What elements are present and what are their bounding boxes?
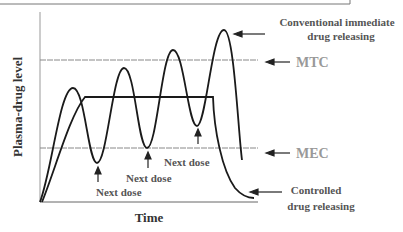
drug-release-diagram: Plasma-drug level Time Next dose Next do… <box>0 0 403 232</box>
next-dose-label-1: Next dose <box>96 186 142 198</box>
arrow-up-icon <box>95 167 101 174</box>
y-axis-label: Plasma-drug level <box>10 57 25 157</box>
x-axis-label: Time <box>135 210 164 225</box>
conventional-label-line1: Conventional immediate <box>279 16 394 28</box>
conventional-label-line2: drug releasing <box>307 30 375 42</box>
next-dose-label-3: Next dose <box>164 156 210 168</box>
arrow-left-icon <box>234 31 242 37</box>
controlled-release-curve <box>42 97 254 202</box>
arrow-up-icon <box>145 152 151 159</box>
frame-border <box>0 0 350 4</box>
arrow-left-icon <box>266 59 274 65</box>
controlled-label-line1: Controlled <box>291 184 342 196</box>
arrow-left-icon <box>266 150 274 156</box>
mtc-label: MTC <box>296 55 329 70</box>
next-dose-label-2: Next dose <box>126 172 172 184</box>
mec-label: MEC <box>296 146 329 161</box>
arrow-left-icon <box>250 189 258 195</box>
controlled-label-line2: drug releasing <box>287 200 355 212</box>
arrow-up-icon <box>195 129 201 136</box>
